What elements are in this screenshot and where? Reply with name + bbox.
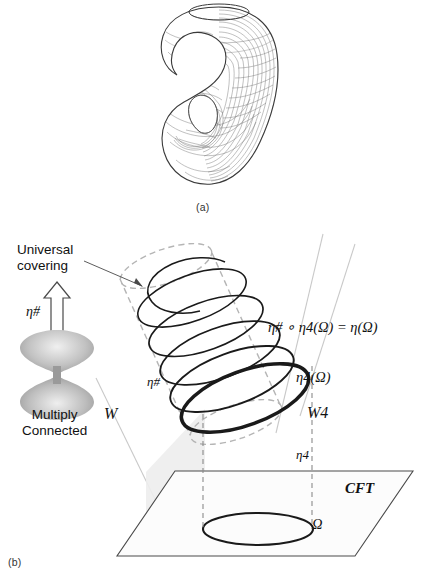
panel-b: Universal covering Multiply Connected η#…: [0, 226, 429, 582]
panel-b-caption: (b): [8, 556, 21, 568]
eta4-omega-bold-loop: [173, 350, 317, 447]
panel-a-caption: (a): [196, 201, 209, 213]
label-bulk-W: W: [104, 405, 117, 423]
eta-sharp-block-arrow: [44, 282, 70, 336]
universal-covering-line1: Universal: [17, 242, 73, 257]
universal-covering-line2: covering: [17, 258, 68, 273]
label-eta-sharp-spiral: η#: [147, 374, 160, 390]
label-eta4-projection: η4: [296, 447, 309, 463]
universal-covering-helix: [131, 257, 318, 446]
label-universal-covering: Universal covering: [17, 242, 73, 273]
figure-root: (a): [0, 0, 429, 582]
panel-a: (a): [0, 0, 429, 232]
multiply-connected-line1: Multiply: [32, 407, 78, 422]
multiply-connected-line2: Connected: [22, 423, 87, 438]
label-multiply-connected: Multiply Connected: [22, 407, 87, 438]
label-eta-sharp-arrow: η#: [26, 304, 40, 320]
panel-b-graphics: [0, 226, 429, 582]
universal-covering-leader: [84, 261, 143, 287]
klein-bottle-wireframe-surface: [140, 2, 300, 197]
label-cft: CFT: [345, 480, 374, 497]
label-eta4-omega: η4(Ω): [296, 369, 331, 386]
label-bulk-W4: W4: [307, 404, 328, 422]
label-omega-region: Ω: [312, 516, 323, 533]
label-equation-covering-composition: η# ∘ η4(Ω) = η(Ω): [268, 319, 378, 336]
